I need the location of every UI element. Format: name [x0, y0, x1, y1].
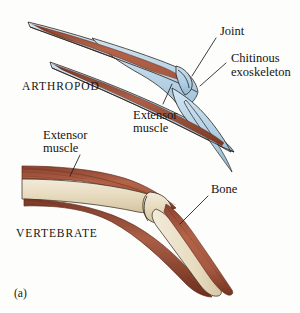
- leader-line-bone: [180, 196, 208, 224]
- vertebrate-extensor-label-line1: Extensor: [43, 128, 88, 142]
- panel-label: (a): [14, 287, 27, 300]
- vertebrate-bone-label: Bone: [211, 182, 238, 196]
- arthropod-extensor-label-line1: Extensor: [133, 108, 178, 122]
- limb-comparison-diagram: ARTHROPOD Joint Chitinous exoskeleton Ex…: [0, 0, 300, 313]
- vertebrate-taxon-label: VERTEBRATE: [16, 227, 98, 239]
- figure-panel-a: ARTHROPOD Joint Chitinous exoskeleton Ex…: [0, 0, 300, 313]
- leader-line-joint: [192, 38, 216, 76]
- leader-line-chitinous-exoskeleton: [200, 63, 226, 86]
- arthropod-taxon-label: ARTHROPOD: [22, 80, 100, 92]
- arthropod-exoskeleton-label-line1: Chitinous: [231, 51, 280, 65]
- arthropod-exoskeleton-label-line2: exoskeleton: [231, 65, 291, 79]
- vertebrate-extensor-label-line2: muscle: [43, 141, 79, 155]
- arthropod-joint-label: Joint: [220, 24, 245, 38]
- vertebrate-limb-illustration: Extensor muscle VERTEBRATE Bone: [16, 128, 238, 297]
- arthropod-extensor-label-line2: muscle: [133, 121, 169, 135]
